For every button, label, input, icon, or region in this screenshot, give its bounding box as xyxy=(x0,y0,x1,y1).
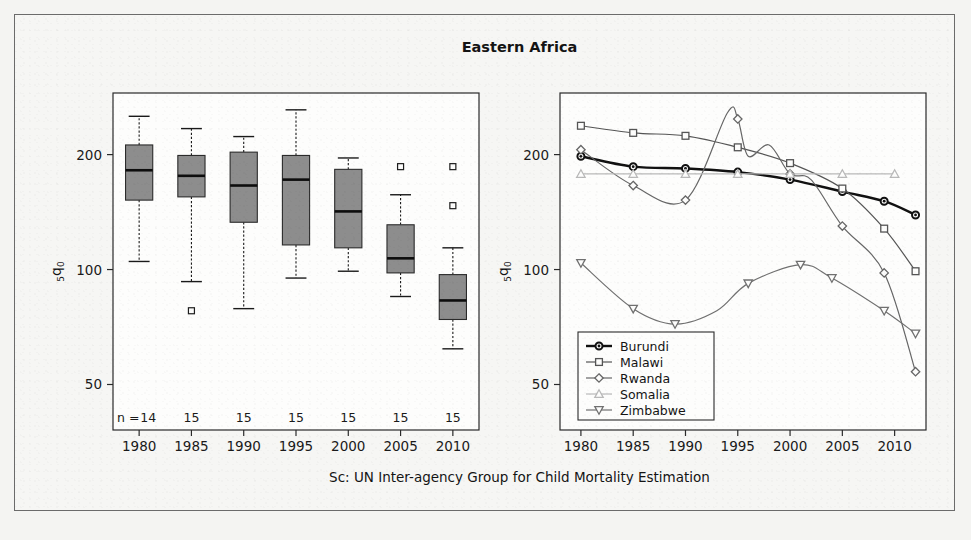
box-iqr xyxy=(387,225,414,273)
figure-root: Eastern Africa501002005q01980n =14198515… xyxy=(0,0,971,540)
legend-label-somalia: Somalia xyxy=(620,387,670,402)
box-outlier-point xyxy=(450,203,456,209)
box-outlier-point xyxy=(398,164,404,170)
lineplot-y-axis: 501002005q0 xyxy=(495,147,560,393)
boxplot-n-prefix: n = xyxy=(117,410,139,425)
boxplot-y-axis-label-post: 0 xyxy=(56,261,66,267)
box-iqr xyxy=(282,155,309,244)
boxplot-y-axis-label: 5q0 xyxy=(48,261,66,282)
box-iqr xyxy=(439,275,466,320)
marker-malawi xyxy=(881,225,888,232)
legend-marker-malawi xyxy=(596,359,603,366)
lineplot-y-tick-label: 200 xyxy=(523,147,549,163)
marker-burundi-dot xyxy=(883,200,886,203)
boxplot-n-count: 15 xyxy=(183,410,199,425)
lineplot-y-axis-label-post: 0 xyxy=(503,261,513,267)
boxplot-n-count: 15 xyxy=(288,410,304,425)
lineplot-x-axis: 1980198519901995200020052010 xyxy=(564,430,912,454)
legend-label-rwanda: Rwanda xyxy=(620,371,670,386)
legend-label-zimbabwe: Zimbabwe xyxy=(620,403,686,418)
legend: BurundiMalawiRwandaSomaliaZimbabwe xyxy=(578,332,714,420)
marker-malawi xyxy=(839,185,846,192)
lineplot-x-tick-label: 1985 xyxy=(616,438,650,454)
lineplot-x-tick-label: 1990 xyxy=(668,438,702,454)
page-title: Eastern Africa xyxy=(462,39,578,55)
box-iqr xyxy=(126,145,153,200)
boxplot-y-axis: 501002005q0 xyxy=(48,147,113,393)
figure-caption: Sc: UN Inter-agency Group for Child Mort… xyxy=(329,469,710,485)
marker-burundi-dot xyxy=(914,214,917,217)
legend-label-burundi: Burundi xyxy=(620,339,669,354)
lineplot-y-tick-label: 100 xyxy=(523,262,549,278)
lineplot-y-axis-label: 5q0 xyxy=(495,261,513,282)
boxplot-x-tick-label: 2005 xyxy=(383,438,417,454)
box-iqr xyxy=(335,169,362,247)
marker-malawi xyxy=(630,129,637,136)
lineplot-x-tick-label: 2005 xyxy=(825,438,859,454)
boxplot-y-tick-label: 200 xyxy=(76,147,102,163)
boxplot-y-tick-label: 100 xyxy=(76,262,102,278)
box-outlier-point xyxy=(188,308,194,314)
lineplot-x-tick-label: 1995 xyxy=(721,438,755,454)
boxplot-x-tick-label: 1995 xyxy=(279,438,313,454)
legend-marker-burundi-dot xyxy=(598,345,601,348)
boxplot-x-tick-label: 1980 xyxy=(122,438,156,454)
boxplot-n-count: 15 xyxy=(393,410,409,425)
lineplot-y-axis-label-main: q xyxy=(495,267,511,276)
marker-malawi xyxy=(787,160,794,167)
marker-malawi xyxy=(682,132,689,139)
boxplot-x-tick-label: 2010 xyxy=(436,438,470,454)
legend-label-malawi: Malawi xyxy=(620,355,663,370)
marker-burundi-dot xyxy=(580,155,583,158)
boxplot-y-tick-label: 50 xyxy=(85,376,102,392)
boxplot-x-tick-label: 1985 xyxy=(174,438,208,454)
lineplot-x-tick-label: 2000 xyxy=(773,438,807,454)
lineplot-x-tick-label: 1980 xyxy=(564,438,598,454)
marker-malawi xyxy=(734,144,741,151)
boxplot-n-count: 15 xyxy=(236,410,252,425)
boxplot-n-count: 14 xyxy=(140,410,156,425)
chart-canvas: Eastern Africa501002005q01980n =14198515… xyxy=(15,15,954,510)
box-iqr xyxy=(230,152,257,222)
lineplot-x-tick-label: 2010 xyxy=(877,438,911,454)
boxplot-n-count: 15 xyxy=(340,410,356,425)
marker-burundi-dot xyxy=(632,165,635,168)
box-outlier-point xyxy=(450,164,456,170)
boxplot-x-tick-label: 1990 xyxy=(227,438,261,454)
marker-malawi xyxy=(912,268,919,275)
boxplot-n-count: 15 xyxy=(445,410,461,425)
figure-border: Eastern Africa501002005q01980n =14198515… xyxy=(14,14,955,511)
lineplot-y-tick-label: 50 xyxy=(532,376,549,392)
marker-malawi xyxy=(578,122,585,129)
boxplot-x-tick-label: 2000 xyxy=(331,438,365,454)
boxplot-y-axis-label-main: q xyxy=(48,267,64,276)
